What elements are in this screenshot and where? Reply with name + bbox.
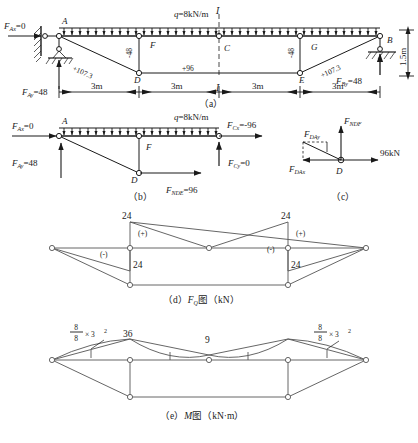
node-e-F [127, 357, 132, 362]
shear-value-left-top: 24 [122, 211, 132, 221]
shear-value-right-bottom: 24 [291, 260, 301, 270]
node-e-B [363, 357, 368, 362]
panel-d: 24 24 24 24 (+) (-) (+) (-) （d）FQ图（kN） [49, 211, 368, 306]
shear-long-slope [130, 222, 366, 248]
caption-d: （d）FQ图（kN） [163, 294, 240, 306]
label-F: F [149, 40, 156, 50]
formula-left-denominator: 8 [74, 334, 78, 343]
force-FCx-label-b: FCx=-96 [226, 120, 257, 131]
force-FNDE-label-b: FNDE=96 [165, 185, 198, 196]
section-mark-top: Ⅰ [215, 6, 220, 16]
panel-c: D 96kN FNDF FDAy FDAx （c） [288, 116, 401, 202]
joint-F-b [136, 133, 141, 138]
formula-right-numerator: 8 [318, 323, 322, 332]
force-label-AD: +107.3 [71, 64, 94, 81]
formula-right-denominator: 8 [318, 334, 322, 343]
shear-value-left-bottom: 24 [133, 260, 143, 270]
shear-value-right-top: 24 [281, 211, 291, 221]
force-label-FD: -48 [125, 48, 134, 58]
label-C: C [224, 43, 231, 53]
moment-value-9: 9 [205, 335, 210, 345]
node-e-C [206, 357, 211, 362]
force-FNDF-label-c: FNDF [343, 116, 362, 127]
dim-height-label: 1.5m [398, 48, 408, 66]
sign-plus-right: (+) [296, 229, 306, 238]
joint-A-b [56, 133, 61, 138]
node-d-B [363, 245, 368, 250]
sign-minus-left: (-) [100, 250, 108, 259]
caption-c: （c） [331, 191, 355, 202]
joint-B [377, 33, 382, 38]
formula-left-tail: × 3 [85, 330, 95, 339]
formula-left-exp: 2 [104, 328, 107, 334]
force-FCy-label-b: FCy=0 [227, 158, 250, 169]
ghost-A-D-d [52, 248, 130, 285]
node-d-E [285, 282, 290, 287]
node-d-C [206, 245, 211, 250]
label-B: B [387, 35, 393, 45]
moment-chord-2 [130, 339, 209, 355]
panel-a: Ⅰ Ⅰ q=8kN/m A F C G B D E +107.3 +107.3 … [3, 6, 414, 109]
force-FDAx-label-c: FDAx [288, 164, 305, 175]
node-e-A [49, 357, 54, 362]
caption-e: （e）M图（kN·m） [160, 410, 244, 421]
load-label-b: q=8kN/m [174, 112, 209, 122]
joint-G [297, 33, 302, 38]
panel-b: q=8kN/m A F D FAx=0 FAy=48 FCx=-96 FCy=0… [11, 112, 262, 202]
label-A-b: A [61, 116, 68, 126]
node-e-E [285, 394, 290, 399]
dim-seg-1: 3m [91, 81, 103, 91]
joint-A [56, 33, 61, 38]
formula-left: 8 8 × 3 2 [70, 323, 107, 349]
ghost-A-D-e [52, 360, 130, 397]
dim-seg-2: 3m [171, 81, 183, 91]
member-A-D-b [59, 136, 139, 173]
caption-b: （b） [128, 191, 153, 202]
moment-value-36: 36 [123, 329, 133, 339]
force-label-GE: -48 [287, 48, 296, 58]
reaction-FAy-label: FAy=48 [21, 87, 48, 98]
force-label-DE: +96 [182, 64, 194, 73]
figure-root: Ⅰ Ⅰ q=8kN/m A F C G B D E +107.3 +107.3 … [0, 0, 418, 443]
force-FAx-label-b: FAx=0 [11, 121, 34, 132]
ghost-E-B-e [288, 360, 366, 397]
formula-right-tail: × 3 [329, 330, 339, 339]
label-D-b: D [130, 175, 138, 185]
force-FDAy-label-c: FDAy [303, 129, 320, 140]
node-e-G [285, 357, 290, 362]
node-d-F [127, 245, 132, 250]
label-D-c: D [335, 166, 343, 176]
label-F-b: F [145, 142, 152, 152]
node-d-D [127, 282, 132, 287]
reaction-FAx-label: FAx=0 [3, 21, 26, 32]
moment-chord-3 [209, 339, 288, 355]
node-e-D [127, 394, 132, 399]
label-G: G [311, 42, 318, 52]
panel-e: 36 9 8 8 × 3 2 8 8 × 3 2 （e）M图（kN·m） [49, 323, 368, 421]
node-d-A [49, 245, 54, 250]
dim-seg-4: 3m [332, 81, 344, 91]
force-FAy-label-b: FAy=48 [11, 158, 38, 169]
formula-right-exp: 2 [348, 328, 351, 334]
formula-right: 8 8 × 3 2 [314, 323, 351, 349]
force-resultant-c [303, 142, 341, 160]
load-label-a: q=8kN/m [174, 9, 209, 19]
label-D: D [133, 75, 141, 85]
caption-a: （a） [199, 98, 223, 109]
formula-right-leader [327, 341, 339, 349]
dim-seg-3: 3m [252, 81, 264, 91]
joint-F [136, 33, 141, 38]
left-support-hatch [34, 26, 41, 62]
formula-left-numerator: 8 [74, 323, 78, 332]
applied-96kN-label: 96kN [380, 148, 401, 158]
sign-minus-right: (-) [267, 245, 275, 254]
label-A: A [61, 16, 68, 26]
node-d-G [285, 245, 290, 250]
shear-slope-2 [52, 248, 130, 271]
sign-plus-left: (+) [138, 229, 148, 238]
label-E: E [298, 75, 305, 85]
